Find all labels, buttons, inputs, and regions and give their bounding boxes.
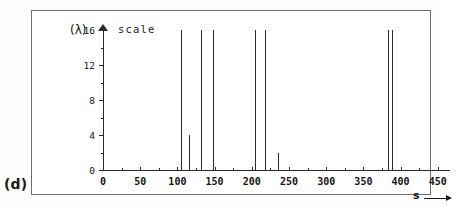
spike-s148 [213,30,214,170]
x-minor-tick-425 [419,168,420,171]
panel-label: (d) [4,176,27,192]
spike-s115 [189,135,190,170]
x-tick-50 [140,167,141,171]
x-tick-350 [363,167,364,171]
spike-s132 [201,30,202,170]
x-axis-arrow-icon [424,195,454,203]
x-minor-tick-125 [196,168,197,171]
x-minor-tick-75 [159,168,160,171]
y-tick-16 [99,30,104,31]
plot-frame: (λ) scale 0481216 0501001502002503003504… [31,10,431,195]
x-tick-0 [103,167,104,171]
x-tick-450 [438,167,439,171]
x-tick-label-450: 450 [418,176,456,187]
spike-s389 [392,30,393,170]
x-tick-label-0: 0 [83,176,123,187]
x-tick-300 [326,167,327,171]
y-tick-label-8: 8 [69,96,95,105]
spike-s218 [265,30,266,170]
y-minor-tick-6 [101,118,104,119]
y-tick-label-0: 0 [69,166,95,175]
y-tick-12 [99,65,104,66]
y-minor-tick-14 [101,48,104,49]
x-minor-tick-375 [382,168,383,171]
x-tick-label-400: 400 [381,176,421,187]
y-minor-tick-10 [101,83,104,84]
x-tick-label-150: 150 [195,176,235,187]
x-tick-label-200: 200 [232,176,272,187]
y-tick-4 [99,135,104,136]
x-tick-250 [289,167,290,171]
x-tick-label-50: 50 [120,176,160,187]
x-tick-label-250: 250 [269,176,309,187]
x-minor-tick-225 [270,168,271,171]
x-minor-tick-25 [122,168,123,171]
spike-s204 [255,30,256,170]
x-tick-400 [401,167,402,171]
y-tick-label-16: 16 [69,26,95,35]
x-axis-title: s [413,189,420,202]
x-minor-tick-175 [233,168,234,171]
x-minor-tick-275 [308,168,309,171]
x-minor-tick-325 [345,168,346,171]
x-tick-100 [177,167,178,171]
spike-s105 [181,30,182,170]
spike-s383 [388,30,389,170]
x-tick-label-100: 100 [157,176,197,187]
x-tick-label-350: 350 [343,176,383,187]
y-tick-label-4: 4 [69,131,95,140]
x-tick-label-300: 300 [306,176,346,187]
scale-axis-label: scale [118,23,156,35]
x-axis-line [103,170,450,171]
x-tick-150 [215,167,216,171]
y-tick-label-12: 12 [69,61,95,70]
y-tick-8 [99,100,104,101]
x-tick-200 [252,167,253,171]
spike-s235 [278,153,279,171]
y-minor-tick-2 [101,153,104,154]
